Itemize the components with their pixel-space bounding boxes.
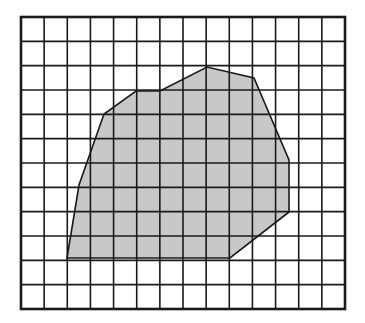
grid-diagram: [0, 0, 365, 323]
